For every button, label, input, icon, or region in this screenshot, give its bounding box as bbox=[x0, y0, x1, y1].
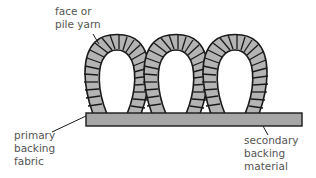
secondary-backing-label: secondary backing material bbox=[244, 134, 298, 173]
pile-yarn-label: face or pile yarn bbox=[55, 5, 101, 31]
primary-backing-label: primary backing fabric bbox=[14, 129, 55, 168]
backing-layer bbox=[86, 113, 302, 126]
pile-loop-1 bbox=[84, 35, 150, 115]
primary-backing-leader bbox=[52, 116, 86, 132]
pile-loop-2 bbox=[143, 35, 209, 115]
pile-loop-3 bbox=[202, 35, 268, 115]
